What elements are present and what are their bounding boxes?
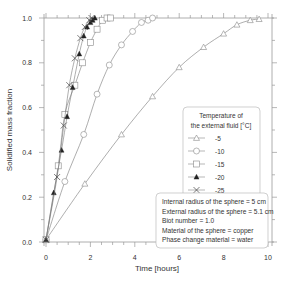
x-tick-label: 6 [177,254,181,261]
series-line [46,18,153,240]
y-tick-label: 0.4 [22,149,32,156]
series-line [46,18,95,240]
circle-marker [118,42,124,48]
circle-marker [94,91,100,97]
series-minus10 [43,15,156,243]
y-tick-label: 0.0 [22,239,32,246]
series-minus25 [43,15,95,243]
triangle-marker [221,31,227,36]
annotation-line: Internal radius of the sphere = 5 cm [162,198,266,206]
circle-marker [62,179,68,185]
circle-marker [150,15,156,21]
triangle-marker [234,22,240,27]
y-tick-label: 0.6 [22,104,32,111]
x-axis-label: Time [hours] [135,264,179,273]
legend-label: -5 [215,135,221,142]
circle-marker [138,19,144,25]
x-tick-label: 8 [222,254,226,261]
x-tick-label: 10 [264,254,272,261]
filled-triangle-marker [51,190,56,195]
y-axis-label: Solidified mass fraction [5,89,14,171]
legend-label: -25 [215,187,225,194]
circle-marker [81,131,87,137]
y-tick-label: 1.0 [22,15,32,22]
filled-triangle-marker [59,147,64,152]
square-marker [107,15,113,21]
triangle-marker [82,181,88,186]
x-tick-label: 4 [133,254,137,261]
y-tick-label: 0.2 [22,194,32,201]
legend-label: -10 [215,148,225,155]
series-minus15 [43,15,113,243]
legend-label: -20 [215,174,225,181]
series-line [46,18,110,240]
annotation-box: Internal radius of the sphere = 5 cmExte… [156,193,274,248]
annotation-line: Material of the sphere = copper [162,227,254,235]
annotation-line: Phase change material = water [162,236,254,244]
annotation-line: External radius of the sphere = 5.1 cm [162,208,274,216]
y-tick-label: 0.8 [22,59,32,66]
legend-label: -15 [215,161,225,168]
triangle-marker [201,44,207,49]
circle-marker [106,62,112,68]
square-marker [80,60,86,66]
annotation-line: Biot number = 1.0 [162,217,215,224]
square-marker [194,161,200,167]
legend-title-line1: Temperature of [199,112,243,120]
square-marker [94,26,100,32]
legend-title-line2: the external fluid [°C] [191,122,252,130]
square-marker [87,40,93,46]
circle-marker [194,148,200,154]
legend: Temperature ofthe external fluid [°C]-5-… [183,107,260,197]
chart: 02468100.00.20.40.60.81.0Time [hours]Sol… [0,0,284,286]
triangle-marker [118,131,124,136]
x-tick-label: 0 [44,254,48,261]
x-tick-label: 2 [88,254,92,261]
circle-marker [130,28,136,34]
